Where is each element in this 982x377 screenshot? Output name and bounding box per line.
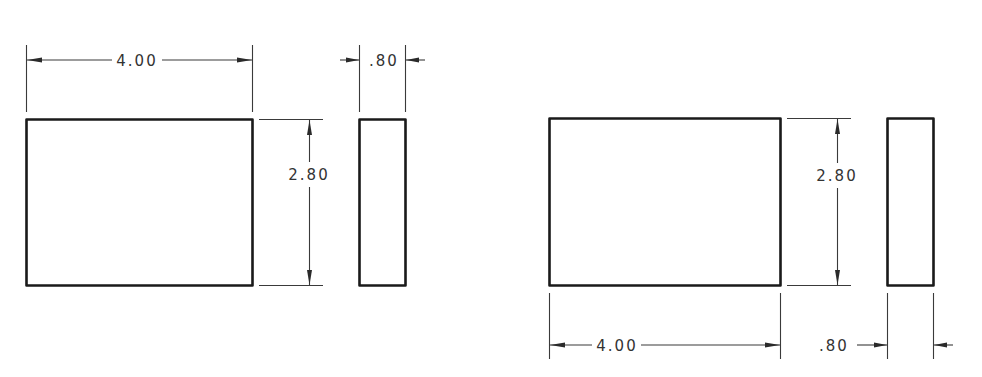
arrow-right-icon — [346, 58, 359, 63]
view-set-b: 2.80 4.00 .80 — [550, 119, 954, 360]
arrow-right-icon — [874, 343, 887, 348]
arrow-left-icon — [406, 58, 419, 63]
arrow-left-icon — [27, 58, 42, 63]
width-dimension-b: 4.00 — [550, 293, 781, 359]
height-label-a: 2.80 — [288, 166, 329, 184]
view-set-a: 4.00 2.80 .80 — [27, 45, 426, 286]
width-label-b: 4.00 — [596, 337, 637, 355]
thickness-dimension-a: .80 — [340, 45, 425, 112]
thickness-label-b: .80 — [819, 337, 849, 355]
arrow-up-icon — [835, 119, 840, 134]
side-view-b — [888, 119, 934, 286]
height-dimension-b: 2.80 — [787, 119, 858, 286]
thickness-label-a: .80 — [369, 52, 399, 70]
side-view-a — [360, 120, 406, 286]
arrow-up-icon — [307, 120, 312, 135]
height-label-b: 2.80 — [816, 167, 857, 185]
front-view-b — [550, 119, 781, 286]
arrow-right-icon — [765, 343, 780, 348]
arrow-left-icon — [934, 343, 947, 348]
front-view-a — [27, 120, 253, 286]
arrow-down-icon — [307, 270, 312, 285]
arrow-down-icon — [835, 270, 840, 285]
thickness-dimension-b: .80 — [819, 293, 953, 359]
arrow-left-icon — [550, 343, 565, 348]
drawing-canvas: 4.00 2.80 .80 — [0, 0, 982, 377]
width-dimension-a: 4.00 — [27, 45, 253, 112]
arrow-right-icon — [237, 58, 252, 63]
width-label-a: 4.00 — [116, 52, 157, 70]
height-dimension-a: 2.80 — [259, 120, 330, 286]
